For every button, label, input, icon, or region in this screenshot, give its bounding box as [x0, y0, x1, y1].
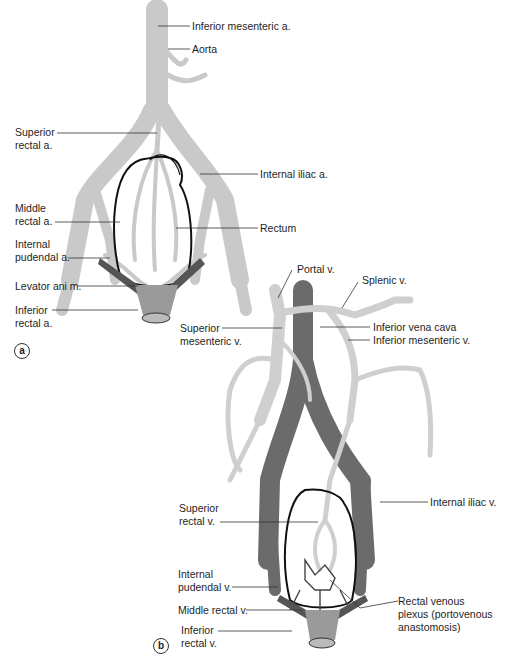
label-internal-pudendal-artery-line2: pudendal a.: [15, 251, 70, 264]
label-rectum: Rectum: [260, 222, 296, 235]
label-superior-rectal-artery-line2: rectal a.: [15, 139, 52, 152]
label-rectal-venous-plexus-line1: Rectal venous: [398, 595, 465, 608]
label-superior-mesenteric-vein-line2: mesenteric v.: [180, 335, 242, 348]
label-inferior-rectal-artery-line2: rectal a.: [15, 317, 52, 330]
panel-a-arteries: [62, 10, 246, 310]
label-splenic-vein: Splenic v.: [362, 274, 407, 287]
label-inferior-rectal-vein-line2: rectal v.: [181, 637, 217, 650]
label-superior-rectal-vein-line2: rectal v.: [179, 515, 215, 528]
label-internal-iliac-artery: Internal iliac a.: [260, 168, 328, 181]
label-inferior-mesenteric-vein: Inferior mesenteric v.: [373, 334, 470, 347]
label-portal-vein: Portal v.: [297, 263, 335, 276]
label-aorta: Aorta: [192, 43, 217, 56]
label-middle-rectal-vein: Middle rectal v.: [178, 604, 248, 617]
label-internal-pudendal-artery-line1: Internal: [15, 238, 50, 251]
label-inferior-rectal-vein-line1: Inferior: [181, 624, 214, 637]
label-internal-pudendal-vein-line1: Internal: [178, 568, 213, 581]
label-inferior-vena-cava: Inferior vena cava: [373, 321, 456, 334]
label-rectal-venous-plexus-line2: plexus (portovenous: [398, 608, 493, 621]
label-internal-pudendal-vein-line2: pudendal v.: [178, 581, 232, 594]
label-rectal-venous-plexus-line3: anastomosis): [398, 621, 460, 634]
label-inferior-rectal-artery-line1: Inferior: [15, 304, 48, 317]
panel-badge-b: b: [153, 638, 169, 654]
label-superior-rectal-artery-line1: Superior: [15, 126, 55, 139]
label-internal-iliac-vein: Internal iliac v.: [430, 496, 496, 509]
label-middle-rectal-artery-line2: rectal a.: [15, 215, 52, 228]
label-levator-ani: Levator ani m.: [15, 280, 82, 293]
label-inferior-mesenteric-artery: Inferior mesenteric a.: [192, 20, 291, 33]
label-middle-rectal-artery-line1: Middle: [15, 202, 46, 215]
label-superior-rectal-vein-line1: Superior: [179, 502, 219, 515]
panel-badge-a: a: [14, 343, 30, 359]
label-superior-mesenteric-vein-line1: Superior: [180, 322, 220, 335]
